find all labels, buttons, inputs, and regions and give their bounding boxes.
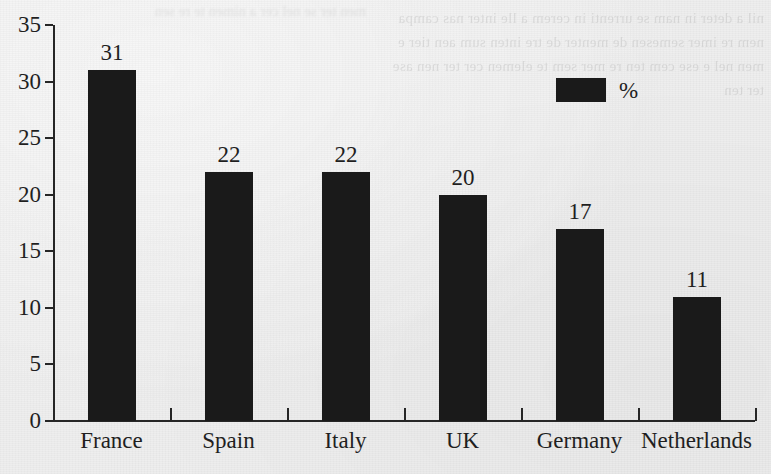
bar-italy[interactable] bbox=[322, 172, 370, 421]
y-tick-label-20: 20 bbox=[1, 183, 41, 206]
chart-page: men ter se nel cer a nimen te re sen nil… bbox=[0, 0, 771, 474]
y-tick-label-30: 30 bbox=[1, 70, 41, 93]
y-tick-label-0: 0 bbox=[1, 409, 41, 432]
legend-label-percent: % bbox=[619, 79, 638, 102]
bar-value-france: 31 bbox=[72, 41, 152, 64]
legend-swatch-percent bbox=[556, 78, 606, 102]
bar-value-italy: 22 bbox=[306, 143, 386, 166]
bar-value-uk: 20 bbox=[423, 166, 503, 189]
chart-legend: % bbox=[556, 78, 638, 102]
category-label-italy: Italy bbox=[287, 428, 404, 454]
x-tick-5 bbox=[638, 408, 640, 421]
category-label-spain: Spain bbox=[170, 428, 287, 454]
category-label-uk: UK bbox=[404, 428, 521, 454]
bar-spain[interactable] bbox=[205, 172, 253, 421]
bar-value-germany: 17 bbox=[540, 200, 620, 223]
x-tick-4 bbox=[521, 408, 523, 421]
bar-value-netherlands: 11 bbox=[657, 268, 737, 291]
y-tick-30 bbox=[45, 81, 53, 83]
y-tick-label-25: 25 bbox=[1, 126, 41, 149]
bar-value-spain: 22 bbox=[189, 143, 269, 166]
x-tick-0 bbox=[53, 408, 55, 421]
category-label-germany: Germany bbox=[521, 428, 638, 454]
bar-chart-plot-area: 05101520253035 312222201711 FranceSpainI… bbox=[0, 0, 771, 474]
y-tick-0 bbox=[45, 420, 53, 422]
y-tick-label-35: 35 bbox=[1, 13, 41, 36]
x-tick-1 bbox=[170, 408, 172, 421]
y-tick-15 bbox=[45, 250, 53, 252]
bar-netherlands[interactable] bbox=[673, 297, 721, 421]
y-axis-line bbox=[53, 25, 55, 421]
bar-germany[interactable] bbox=[556, 229, 604, 421]
y-tick-label-10: 10 bbox=[1, 296, 41, 319]
y-tick-5 bbox=[45, 363, 53, 365]
y-tick-25 bbox=[45, 137, 53, 139]
y-tick-label-5: 5 bbox=[1, 352, 41, 375]
y-tick-35 bbox=[45, 24, 53, 26]
y-tick-20 bbox=[45, 194, 53, 196]
x-tick-6 bbox=[755, 408, 757, 421]
bar-france[interactable] bbox=[88, 70, 136, 421]
y-tick-10 bbox=[45, 307, 53, 309]
y-tick-label-15: 15 bbox=[1, 239, 41, 262]
category-label-france: France bbox=[53, 428, 170, 454]
category-label-netherlands: Netherlands bbox=[638, 428, 755, 454]
x-tick-3 bbox=[404, 408, 406, 421]
bar-uk[interactable] bbox=[439, 195, 487, 421]
x-tick-2 bbox=[287, 408, 289, 421]
